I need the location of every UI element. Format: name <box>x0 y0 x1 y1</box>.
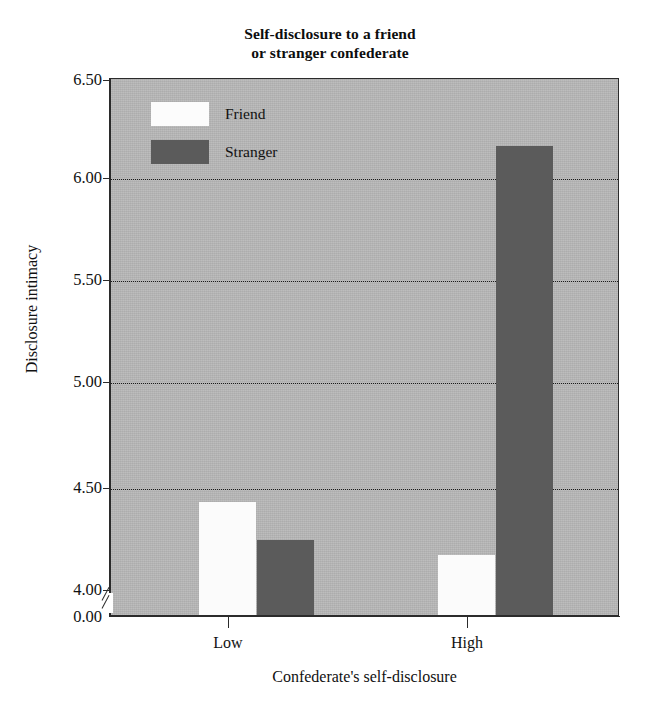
ytick-label-4-00: 4.00 <box>40 582 102 598</box>
bar-low-stranger[interactable] <box>257 540 314 616</box>
ytick-mark-6-00 <box>103 178 111 179</box>
chart-title-line-1: Self-disclosure to a friend <box>160 24 500 43</box>
plot-area: Friend Stranger <box>110 78 619 616</box>
chart-title-line-2: or stranger confederate <box>160 43 500 62</box>
y-axis-title: Disclosure intimacy <box>23 189 41 429</box>
ytick-label-6-00: 6.00 <box>40 170 102 186</box>
ytick-mark-4-50 <box>103 488 111 489</box>
legend-item-stranger: Stranger <box>151 140 278 164</box>
xtick-label-low: Low <box>168 634 288 652</box>
xtick-mark-high <box>467 617 468 628</box>
y-axis-line <box>109 78 110 616</box>
chart-title: Self-disclosure to a friend or stranger … <box>160 24 500 62</box>
chart-legend: Friend Stranger <box>151 102 278 178</box>
x-axis-title: Confederate's self-disclosure <box>110 668 619 686</box>
x-axis-line <box>109 616 620 617</box>
legend-swatch-stranger <box>151 140 209 164</box>
ytick-label-6-50: 6.50 <box>40 72 102 88</box>
legend-swatch-friend <box>151 102 209 126</box>
legend-label-friend: Friend <box>225 105 265 123</box>
legend-label-stranger: Stranger <box>225 143 278 161</box>
ytick-label-0-00: 0.00 <box>40 609 102 625</box>
ytick-mark-5-50 <box>103 280 111 281</box>
bar-low-friend[interactable] <box>199 502 256 616</box>
ytick-label-5-50: 5.50 <box>40 272 102 288</box>
xtick-label-high: High <box>407 634 527 652</box>
ytick-label-4-50: 4.50 <box>40 480 102 496</box>
xtick-mark-low <box>228 617 229 628</box>
ytick-mark-6-50 <box>103 80 111 81</box>
bar-high-friend[interactable] <box>438 555 495 616</box>
ytick-label-5-00: 5.00 <box>40 374 102 390</box>
ytick-mark-5-00 <box>103 382 111 383</box>
axis-break-icon <box>101 591 119 615</box>
chart-figure: Self-disclosure to a friend or stranger … <box>0 0 653 717</box>
legend-item-friend: Friend <box>151 102 278 126</box>
bar-high-stranger[interactable] <box>496 146 553 616</box>
